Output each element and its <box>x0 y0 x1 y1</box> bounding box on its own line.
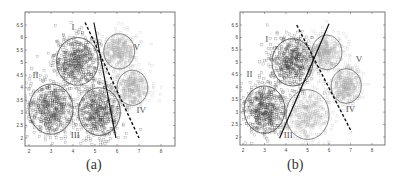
scatter-panel-a: 234567822.533.544.555.566.5IIIIIIVIV (a) <box>0 0 200 182</box>
y-tick-label: 5.5 <box>17 48 24 53</box>
caption-a: (a) <box>86 157 102 173</box>
y-tick-label: 4.5 <box>232 72 239 77</box>
y-tick-label: 2 <box>20 136 23 141</box>
scatter-plot-a: 234567822.533.544.555.566.5IIIIIIVIV <box>0 0 200 182</box>
y-tick-label: 4.5 <box>17 73 24 78</box>
region-label: V <box>134 42 141 52</box>
x-tick-label: 7 <box>349 148 352 153</box>
y-tick-label: 4 <box>20 85 23 90</box>
x-tick-label: 2 <box>242 148 245 153</box>
x-tick-label: 6 <box>116 149 119 154</box>
y-tick-label: 2 <box>235 135 238 140</box>
x-tick-label: 2 <box>28 149 31 154</box>
x-tick-label: 7 <box>138 149 141 154</box>
y-tick-label: 5 <box>20 60 23 65</box>
region-label: IV <box>346 104 356 114</box>
region-label: V <box>356 54 363 64</box>
y-tick-label: 5 <box>235 60 238 65</box>
y-tick-label: 3.5 <box>17 98 24 103</box>
region-label: I <box>72 22 75 32</box>
y-tick-label: 3 <box>20 110 23 115</box>
x-tick-label: 8 <box>371 148 374 153</box>
region-label: III <box>284 130 293 140</box>
y-tick-label: 6 <box>20 35 23 40</box>
y-tick-label: 6.5 <box>232 23 239 28</box>
y-tick-label: 4 <box>235 85 238 90</box>
x-tick-label: 4 <box>72 149 75 154</box>
scatter-plot-b: 234567822.533.544.555.566.5IIIIIIVIV <box>200 0 400 182</box>
region-label: IV <box>136 105 146 115</box>
x-tick-label: 5 <box>306 148 309 153</box>
y-tick-label: 3 <box>235 110 238 115</box>
scatter-panel-b: 234567822.533.544.555.566.5IIIIIIVIV (b) <box>200 0 400 182</box>
x-tick-label: 8 <box>160 149 163 154</box>
x-tick-label: 5 <box>94 149 97 154</box>
region-label: I <box>265 34 268 44</box>
region-label: III <box>71 130 80 140</box>
y-tick-label: 6 <box>235 35 238 40</box>
region-label: II <box>33 70 39 80</box>
y-tick-label: 6.5 <box>17 23 24 28</box>
region-label: II <box>246 69 252 79</box>
x-tick-label: 3 <box>50 149 53 154</box>
y-tick-label: 2.5 <box>232 122 239 127</box>
y-tick-label: 3.5 <box>232 97 239 102</box>
x-tick-label: 4 <box>285 148 288 153</box>
x-tick-label: 3 <box>263 148 266 153</box>
caption-b: (b) <box>287 157 303 173</box>
y-tick-label: 5.5 <box>232 47 239 52</box>
y-tick-label: 2.5 <box>17 123 24 128</box>
x-tick-label: 6 <box>328 148 331 153</box>
